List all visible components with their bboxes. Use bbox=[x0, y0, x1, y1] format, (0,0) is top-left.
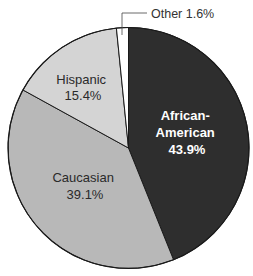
slice-label-other: Other 1.6% bbox=[151, 7, 214, 21]
pie-chart: African- American 43.9% Caucasian 39.1% … bbox=[0, 0, 253, 276]
pie-slices bbox=[8, 28, 249, 269]
